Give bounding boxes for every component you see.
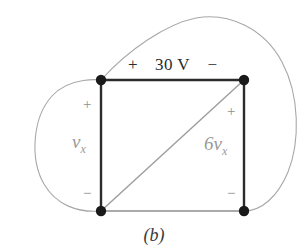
source-minus-sign: − xyxy=(207,55,217,74)
node-top-left xyxy=(96,75,106,85)
source-plus-sign: + xyxy=(128,55,138,74)
source-value: 30 V xyxy=(155,55,190,74)
dependent-source-plus-sign: + xyxy=(227,104,235,119)
circuit-schematic xyxy=(0,0,308,249)
vx-label: vx xyxy=(72,132,86,155)
source-label-group: + 30 V − xyxy=(101,56,244,73)
node-bottom-right xyxy=(239,206,249,216)
vx-minus-sign: − xyxy=(83,186,91,201)
circuit-figure: + 30 V − + − + − vx 6vx (b) xyxy=(0,0,308,249)
enclosing-loop-curve xyxy=(35,17,296,212)
dependent-source-label: 6vx xyxy=(204,134,227,157)
node-top-right xyxy=(239,75,249,85)
node-bottom-left xyxy=(96,206,106,216)
vx-plus-sign: + xyxy=(83,97,91,112)
dependent-source-label-main: 6v xyxy=(204,133,222,154)
vx-label-subscript: x xyxy=(80,142,85,156)
dependent-source-label-subscript: x xyxy=(222,144,227,158)
dependent-source-minus-sign: − xyxy=(227,186,235,201)
figure-caption: (b) xyxy=(0,226,308,244)
